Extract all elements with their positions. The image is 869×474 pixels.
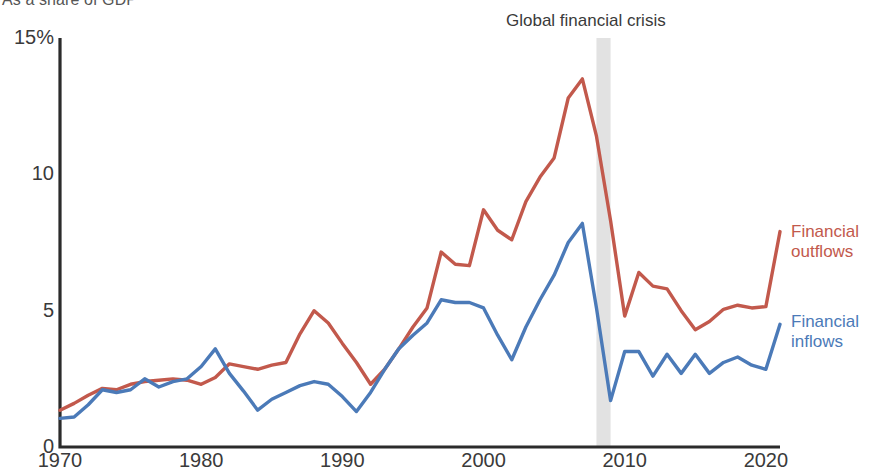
series-label-inflows: Financial inflows (791, 312, 859, 351)
x-axis-tick-label: 1980 (179, 450, 224, 470)
y-axis-tick-label: 15% (14, 27, 54, 47)
x-axis-tick-label: 2000 (461, 450, 506, 470)
series-line-inflows (60, 223, 780, 418)
y-axis-tick-label: 5 (43, 300, 54, 320)
series-label-outflows: Financial outflows (791, 222, 859, 261)
chart-axes (60, 38, 780, 447)
x-axis-tick-label: 2020 (744, 450, 789, 470)
plot-area (0, 0, 869, 474)
x-axis-tick-label: 1990 (320, 450, 365, 470)
y-axis-tick-label: 10 (32, 163, 54, 183)
series-label-outflows-line2: outflows (791, 242, 859, 262)
chart-figure: As a share of GDP Global financial crisi… (0, 0, 869, 474)
series-label-inflows-line2: inflows (791, 332, 859, 352)
x-axis-tick-label: 2010 (602, 450, 647, 470)
series-label-inflows-line1: Financial (791, 312, 859, 332)
series-label-outflows-line1: Financial (791, 222, 859, 242)
x-axis-tick-label: 1970 (38, 450, 83, 470)
